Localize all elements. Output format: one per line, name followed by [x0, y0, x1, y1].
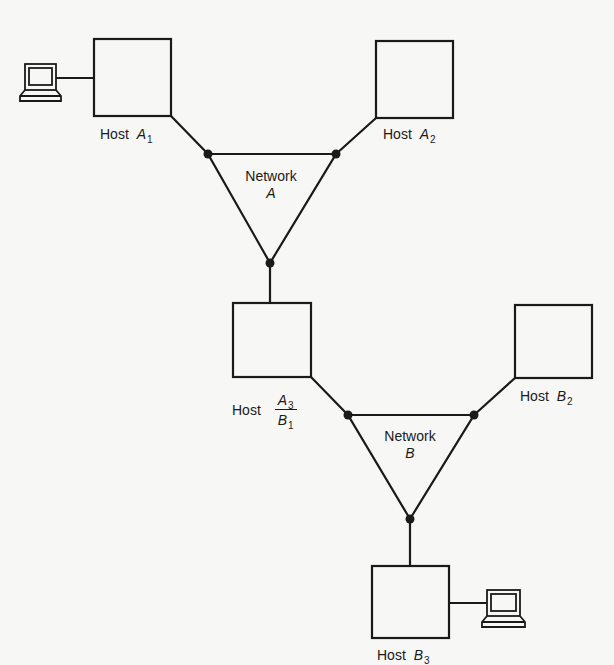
network-word: Network: [226, 168, 316, 185]
link-a3b1-network-b: [311, 377, 348, 415]
network-label-b: Network B: [365, 428, 455, 462]
host-box-b3: [372, 566, 449, 638]
host-letter: A: [278, 392, 287, 408]
host-word: Host: [377, 647, 406, 663]
network-label-a: Network A: [226, 168, 316, 202]
host-word: Host: [383, 126, 412, 142]
terminal-icon: [482, 590, 525, 627]
host-label-b3: Host B3: [377, 648, 430, 662]
link-a2-network-a: [336, 118, 376, 154]
host-subscript: 3: [424, 655, 430, 665]
host-word: Host: [232, 402, 261, 418]
host-subscript: 3: [288, 400, 294, 411]
host-word: Host: [520, 388, 549, 404]
network-letter: B: [365, 445, 455, 462]
host-label-a1: Host A1: [100, 127, 153, 141]
network-word: Network: [365, 428, 455, 445]
host-label-a3-b1: Host A3 B1: [232, 393, 297, 427]
node-dot-b3: [406, 515, 415, 524]
host-letter: A: [137, 126, 146, 142]
host-box-a3-b1: [233, 303, 311, 377]
host-word: Host: [100, 126, 129, 142]
host-box-a2: [376, 41, 453, 118]
network-diagram: Host A1 Host A2 Host A3 B1 Host B2 Host …: [0, 0, 614, 665]
link-a1-network-a: [171, 116, 208, 154]
network-letter: A: [226, 185, 316, 202]
host-box-a1: [94, 39, 171, 116]
terminal-icon: [20, 64, 61, 101]
host-letter: B: [414, 647, 423, 663]
host-subscript: 1: [147, 134, 153, 145]
link-b2-network-b: [474, 378, 515, 415]
node-dot-a2: [332, 150, 341, 159]
host-fraction-bottom: B1: [275, 410, 297, 427]
diagram-graphics: [0, 0, 614, 665]
node-dot-a3: [266, 259, 275, 268]
host-label-b2: Host B2: [520, 389, 573, 403]
host-subscript: 2: [567, 396, 573, 407]
host-subscript: 2: [430, 134, 436, 145]
host-fraction: A3 B1: [275, 393, 297, 427]
node-dot-a1: [204, 150, 213, 159]
host-letter: B: [278, 412, 287, 428]
host-box-b2: [515, 305, 592, 378]
node-dot-b1: [344, 411, 353, 420]
host-letter: B: [557, 388, 566, 404]
host-label-a2: Host A2: [383, 127, 436, 141]
host-letter: A: [420, 126, 429, 142]
host-subscript: 1: [288, 420, 294, 431]
node-dot-b2: [470, 411, 479, 420]
host-fraction-top: A3: [275, 393, 297, 410]
